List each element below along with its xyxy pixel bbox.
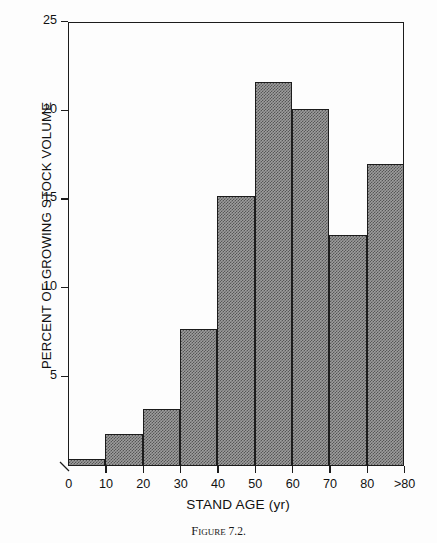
x-tick-0: 0 (68, 466, 69, 473)
x-tick-60: 60 (292, 466, 293, 473)
y-tick-label-20: 20 (43, 102, 57, 116)
axis-line-top (68, 22, 404, 23)
x-tick-label-70: 70 (323, 477, 337, 491)
x-tick-10: 10 (105, 466, 106, 473)
bar->80 (367, 164, 404, 466)
x-axis-title: STAND AGE (yr) (68, 497, 408, 512)
x-tick-label-60: 60 (286, 477, 300, 491)
x-tick-20: 20 (143, 466, 144, 473)
plot-area: 510152025 01020304050607080>80 (68, 22, 404, 466)
y-tick-5: 5 (61, 376, 68, 377)
y-tick-20: 20 (61, 110, 68, 111)
x-tick-40: 40 (217, 466, 218, 473)
bar-30-40 (180, 329, 217, 466)
x-tick-label->80: >80 (394, 477, 415, 491)
figure-caption-number: 7.2. (229, 525, 246, 537)
y-tick-label-10: 10 (43, 279, 57, 293)
bar-50-60 (255, 82, 292, 466)
bar-10-20 (105, 434, 142, 466)
figure-caption: Figure 7.2. (0, 524, 437, 539)
x-tick-label-20: 20 (136, 477, 150, 491)
x-tick-label-50: 50 (248, 477, 262, 491)
x-tick-30: 30 (180, 466, 181, 473)
figure-caption-prefix: Figure (191, 524, 225, 538)
x-tick-50: 50 (255, 466, 256, 473)
y-tick-label-15: 15 (43, 190, 57, 204)
x-tick-label-0: 0 (65, 477, 72, 491)
x-tick-label-80: 80 (360, 477, 374, 491)
y-tick-label-5: 5 (50, 368, 57, 382)
x-tick-80: 80 (367, 466, 368, 473)
x-tick-label-30: 30 (174, 477, 188, 491)
axis-line-left (68, 22, 69, 466)
y-tick-label-25: 25 (43, 13, 57, 27)
y-axis-title: PERCENT OF GROWING STOCK VOLUME (39, 16, 54, 456)
bar-70-80 (329, 235, 366, 466)
x-tick-70: 70 (329, 466, 330, 473)
bar-40-50 (217, 196, 254, 466)
figure-root: PERCENT OF GROWING STOCK VOLUME 51015202… (0, 0, 437, 543)
bar-60-70 (292, 109, 329, 466)
y-tick-25: 25 (61, 21, 68, 22)
y-tick-10: 10 (61, 287, 68, 288)
x-tick-label-40: 40 (211, 477, 225, 491)
bar-20-30 (143, 409, 180, 466)
x-tick-label-10: 10 (99, 477, 113, 491)
x-tick->80: >80 (404, 466, 405, 473)
y-tick-15: 15 (61, 198, 68, 199)
bar-0-10 (68, 459, 105, 466)
